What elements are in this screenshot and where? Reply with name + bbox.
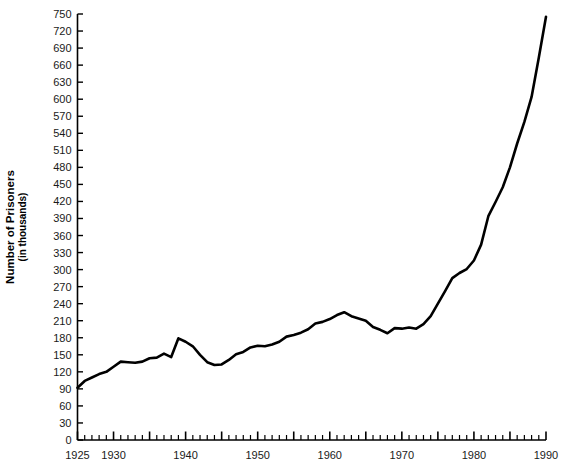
x-tick-label: 1930: [101, 449, 125, 461]
y-tick-label: 60: [59, 400, 71, 412]
x-tick-label: 1960: [318, 449, 342, 461]
y-tick-label: 120: [53, 366, 71, 378]
y-tick-label: 210: [53, 315, 71, 327]
y-tick-label: 0: [65, 434, 71, 446]
y-tick-label: 480: [53, 161, 71, 173]
y-tick-label: 690: [53, 42, 71, 54]
y-tick-label: 330: [53, 247, 71, 259]
x-tick-label: 1950: [245, 449, 269, 461]
y-tick-label: 660: [53, 59, 71, 71]
y-tick-label: 720: [53, 25, 71, 37]
x-tick-label: 1925: [65, 449, 89, 461]
y-axis-title-subtitle: (in thousands): [17, 193, 28, 262]
y-tick-label: 570: [53, 110, 71, 122]
y-tick-label: 270: [53, 281, 71, 293]
x-tick-label: 1990: [534, 449, 558, 461]
y-tick-label: 150: [53, 349, 71, 361]
y-tick-label: 630: [53, 76, 71, 88]
x-tick-label: 1970: [390, 449, 414, 461]
y-tick-label: 600: [53, 93, 71, 105]
y-tick-label: 420: [53, 195, 71, 207]
chart-background: [0, 0, 580, 473]
x-tick-label: 1980: [462, 449, 486, 461]
y-tick-label: 540: [53, 127, 71, 139]
y-tick-label: 90: [59, 383, 71, 395]
x-tick-label: 1940: [173, 449, 197, 461]
chart-canvas: 0306090120150180210240270300330360390420…: [0, 0, 580, 473]
y-tick-label: 510: [53, 144, 71, 156]
y-tick-label: 180: [53, 332, 71, 344]
y-tick-label: 750: [53, 8, 71, 20]
y-tick-label: 450: [53, 178, 71, 190]
y-tick-label: 240: [53, 298, 71, 310]
y-tick-label: 390: [53, 212, 71, 224]
prisoners-line-chart: 0306090120150180210240270300330360390420…: [0, 0, 580, 473]
y-tick-label: 360: [53, 230, 71, 242]
y-tick-label: 300: [53, 264, 71, 276]
y-axis-title: Number of Prisoners: [4, 170, 16, 284]
y-tick-label: 30: [59, 417, 71, 429]
